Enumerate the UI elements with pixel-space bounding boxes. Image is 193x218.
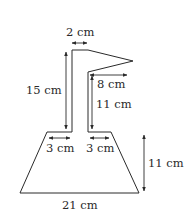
stem-width-label: 2 cm: [66, 25, 94, 39]
trapezium-base-label: 21 cm: [62, 198, 98, 212]
trapezium-height-label: 11 cm: [148, 156, 184, 170]
left-ledge-label: 3 cm: [46, 141, 74, 155]
shape-outline: [20, 50, 139, 193]
flag-width-label: 8 cm: [97, 77, 125, 91]
right-ledge-label: 3 cm: [86, 141, 114, 155]
composite-shape-diagram: 2 cm 15 cm 8 cm 11 cm 3 cm 3 cm 11 cm 21…: [0, 0, 193, 218]
inner-height-label: 11 cm: [96, 97, 132, 111]
stem-height-label: 15 cm: [26, 83, 62, 97]
